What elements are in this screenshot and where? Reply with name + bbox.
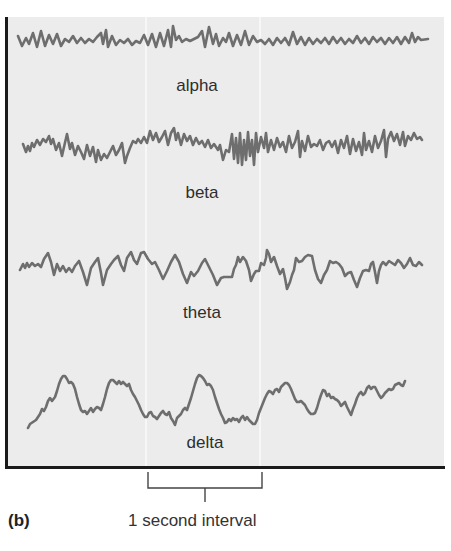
delta-label: delta (187, 433, 224, 453)
one-second-scale-bracket (148, 472, 262, 502)
alpha-label: alpha (176, 76, 218, 96)
theta-trace (20, 250, 422, 289)
scale-caption: 1 second interval (128, 511, 257, 531)
theta-label: theta (183, 303, 221, 323)
beta-trace (23, 128, 422, 165)
delta-trace (28, 375, 405, 428)
beta-label: beta (185, 183, 218, 203)
eeg-waveforms (0, 0, 451, 551)
panel-label: (b) (8, 511, 30, 531)
alpha-trace (18, 26, 428, 47)
